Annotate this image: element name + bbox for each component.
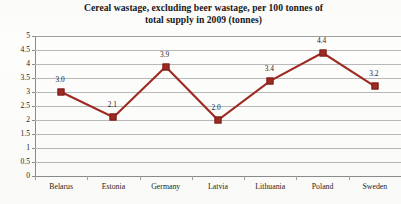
data-point-label: 3.9	[160, 51, 169, 59]
data-point-label: 4.4	[317, 37, 326, 45]
data-point-label: 2.0	[211, 104, 220, 112]
data-point-label: 3.0	[56, 76, 65, 84]
data-point-marker	[58, 89, 65, 96]
data-point-marker	[110, 114, 117, 121]
data-point-marker	[371, 83, 378, 90]
series-line-svg	[0, 0, 401, 204]
data-point-marker	[215, 117, 222, 124]
data-point-label: 2.1	[108, 101, 117, 109]
data-point-label: 3.4	[265, 65, 274, 73]
chart-container: Cereal wastage, excluding beer wastage, …	[0, 0, 401, 204]
data-point-marker	[162, 63, 169, 70]
data-point-marker	[319, 49, 326, 56]
data-point-marker	[267, 77, 274, 84]
data-point-label: 3.2	[369, 70, 378, 78]
